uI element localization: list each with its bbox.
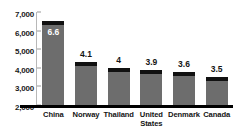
plot-area: 7,0006,0005,0004,0003,0002,0006.64.143.9… [37, 12, 233, 105]
y-axis-tick: 4,000 [15, 59, 37, 77]
x-axis-category-label: Canada [200, 110, 233, 119]
bar[interactable] [75, 62, 97, 105]
bar-slot: 4 [108, 12, 130, 105]
y-axis-tick-mark [37, 49, 41, 50]
x-axis-category-label: Denmark [168, 110, 201, 119]
x-axis-category-label: Thailand [102, 110, 135, 119]
y-axis-tick-label: 5,000 [15, 47, 34, 56]
y-axis-tick-mark [37, 12, 41, 13]
bar-value-label: 4.1 [80, 49, 92, 59]
bar-value-label: 3.6 [178, 59, 190, 69]
x-axis-baseline [20, 105, 233, 108]
y-axis-tick: 3,000 [15, 77, 37, 95]
bar-slot: 6.6 [42, 12, 64, 105]
bar[interactable] [140, 70, 162, 105]
bar-slot: 3.6 [173, 12, 195, 105]
bar-cap-segment [140, 70, 162, 74]
y-axis-tick-label: 3,000 [15, 84, 34, 93]
y-axis-tick: 7,000 [15, 3, 37, 21]
bar[interactable]: 6.6 [42, 21, 64, 105]
bar[interactable] [108, 68, 130, 105]
x-axis-category-label: Norway [70, 110, 103, 119]
bar-cap-segment [206, 77, 228, 81]
bar-cap-segment [75, 62, 97, 66]
y-axis-tick-label: 7,000 [15, 10, 34, 19]
chart-screenshot: 7,0006,0005,0004,0003,0002,0006.64.143.9… [0, 0, 233, 134]
bar-value-label: 3.9 [145, 57, 157, 67]
bar-slot: 3.9 [140, 12, 162, 105]
y-axis-tick-label: 6,000 [15, 29, 34, 38]
y-axis-tick-mark [37, 30, 41, 31]
bar-cap-segment [173, 72, 195, 76]
bar-value-label: 3.5 [211, 64, 223, 74]
bar[interactable] [173, 72, 195, 105]
bar-value-label: 6.6 [47, 27, 59, 37]
bar-value-label: 4 [116, 55, 121, 65]
bar[interactable] [206, 77, 228, 105]
bar-slot: 3.5 [206, 12, 228, 105]
y-axis-tick: 6,000 [15, 22, 37, 40]
bar-cap-segment [42, 21, 64, 25]
y-axis-tick-mark [37, 67, 41, 68]
bar-cap-segment [108, 68, 130, 72]
bar-slot: 4.1 [75, 12, 97, 105]
x-axis-category-label: China [37, 110, 70, 119]
y-axis-tick-label: 4,000 [15, 66, 34, 75]
y-axis-tick: 5,000 [15, 40, 37, 58]
x-axis-category-label: United States [135, 110, 168, 128]
y-axis-tick-mark [37, 86, 41, 87]
